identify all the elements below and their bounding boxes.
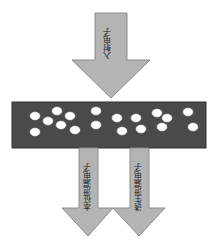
intrinsic-leak-label: 本征泄漏电子 — [84, 163, 92, 211]
incident-electron-label: 入射电子 — [104, 28, 112, 60]
material-layer — [12, 102, 206, 148]
induced-leak-label: 诱生泄漏电子 — [135, 163, 143, 211]
